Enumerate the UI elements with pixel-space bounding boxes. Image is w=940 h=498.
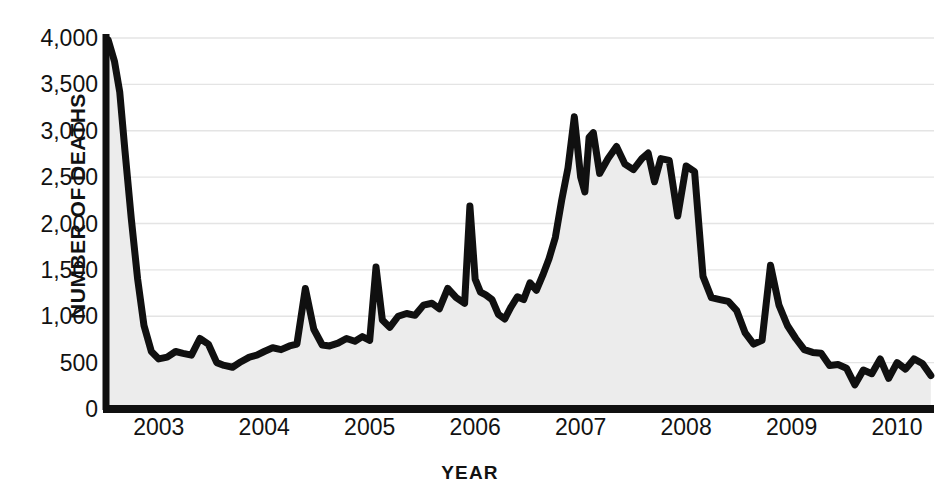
- x-tick-label: 2003: [133, 414, 184, 441]
- x-tick-label: 2005: [344, 414, 395, 441]
- x-tick-label: 2008: [661, 414, 712, 441]
- chart-container: NUMBER OF DEATHS 4,0003,5003,0002,5002,0…: [0, 0, 940, 498]
- x-tick-label: 2010: [871, 414, 922, 441]
- x-axis-title: YEAR: [0, 462, 940, 484]
- x-tick-label: 2009: [766, 414, 817, 441]
- x-tick-label: 2006: [450, 414, 501, 441]
- x-tick-label: 2007: [555, 414, 606, 441]
- x-tick-label: 2004: [239, 414, 290, 441]
